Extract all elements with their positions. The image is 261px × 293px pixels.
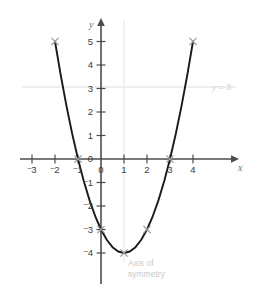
- coordinate-plane-svg: –3–2–101234 543210–1–2–3–4 x y y = 3 Axi…: [0, 0, 261, 293]
- level-line-label: y = 3: [211, 82, 231, 92]
- x-tick-label: 0: [98, 164, 103, 175]
- x-tick-label: 4: [190, 164, 195, 175]
- axis-of-symmetry-label-line1: Axis of: [128, 258, 154, 268]
- graph-figure: –3–2–101234 543210–1–2–3–4 x y y = 3 Axi…: [0, 0, 261, 293]
- chart-background: [0, 0, 261, 293]
- y-tick-label: 0: [88, 153, 93, 164]
- y-axis-label: y: [88, 19, 94, 30]
- x-tick-label: 1: [121, 164, 126, 175]
- y-tick-label: 5: [88, 36, 93, 47]
- axis-of-symmetry-label-line2: symmetry: [128, 269, 166, 279]
- x-tick-label: 3: [167, 164, 172, 175]
- y-tick-label: 1: [88, 130, 93, 141]
- x-axis-label: x: [237, 162, 243, 173]
- x-tick-label: 2: [144, 164, 149, 175]
- y-tick-label: 4: [88, 59, 93, 70]
- level-line-label-value: = 3: [216, 82, 231, 92]
- y-tick-label: 3: [88, 83, 93, 94]
- y-tick-label: 2: [88, 106, 93, 117]
